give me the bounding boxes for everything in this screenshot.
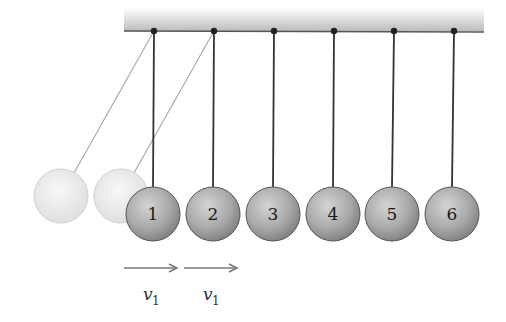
pivot-point	[211, 28, 217, 34]
ball-label: 3	[268, 204, 279, 224]
pendulum-ball-5: 5	[365, 28, 419, 241]
string	[213, 31, 214, 187]
pendulum-ball-1: 1	[126, 28, 180, 241]
support-bar	[124, 8, 484, 32]
string	[392, 31, 394, 187]
pendulum-ball-3: 3	[246, 28, 300, 241]
newtons-cradle-diagram: 123456 v 1 v 1	[0, 0, 506, 322]
svg-text:1: 1	[212, 294, 220, 308]
pendulum-ball-4: 4	[306, 28, 360, 241]
ball-label: 2	[208, 204, 219, 224]
pendulum-ball-6: 6	[425, 28, 479, 241]
pivot-point	[271, 28, 277, 34]
pivot-point	[391, 28, 397, 34]
ball-label: 5	[387, 204, 398, 224]
pivot-point	[151, 28, 157, 34]
pivot-point	[451, 28, 457, 34]
pivot-point	[331, 28, 337, 34]
pendulum-ball-2: 2	[186, 28, 240, 241]
string	[333, 31, 334, 187]
velocity-arrow-2: v 1	[184, 264, 237, 308]
velocity-arrow-1: v 1	[124, 264, 177, 308]
ball-label: 6	[447, 204, 458, 224]
string	[153, 31, 154, 187]
string	[273, 31, 274, 187]
string	[452, 31, 454, 187]
ball-label: 4	[328, 204, 339, 224]
svg-text:1: 1	[152, 294, 160, 308]
ball-label: 1	[148, 204, 159, 224]
